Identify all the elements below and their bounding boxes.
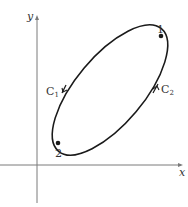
- diagram-canvas: y x 1 2 C1 C2: [0, 0, 188, 207]
- y-axis-label: y: [26, 10, 34, 23]
- path-c1-label: C1: [46, 85, 59, 99]
- y-axis-arrow-icon: [35, 15, 39, 20]
- path-c1-main: C: [46, 85, 54, 98]
- axes: [0, 15, 183, 203]
- path-c2-sub: 2: [169, 89, 173, 97]
- path-c2-main: C: [161, 83, 169, 96]
- path-c2-label: C2: [161, 83, 174, 97]
- path-c1-sub: 1: [54, 91, 58, 99]
- point-2-label: 2: [55, 147, 62, 160]
- point-2-marker: [56, 141, 61, 146]
- x-axis-label: x: [179, 166, 186, 179]
- point-1-label: 1: [157, 23, 164, 36]
